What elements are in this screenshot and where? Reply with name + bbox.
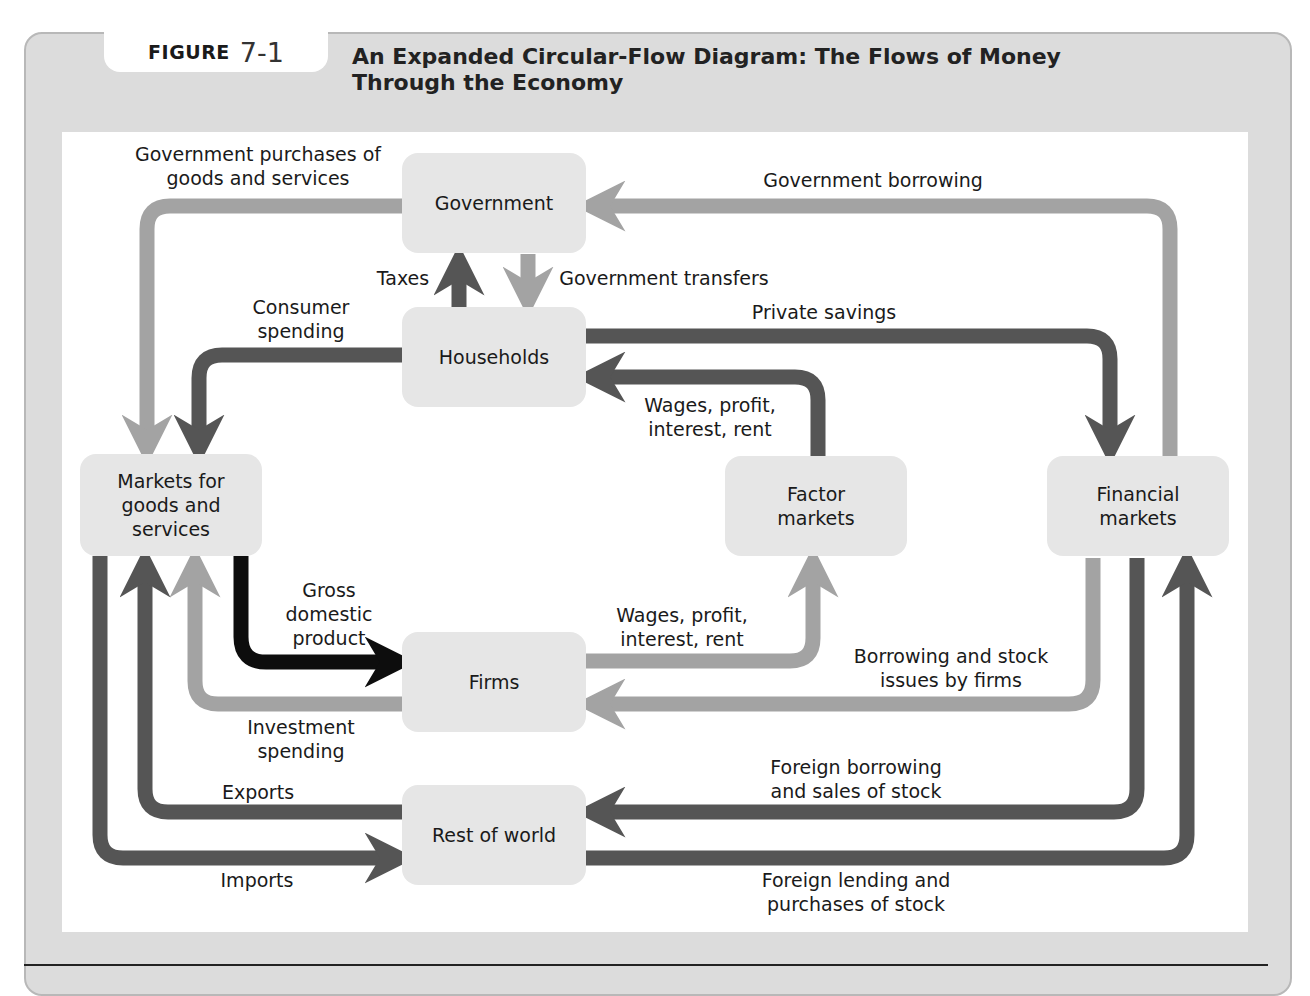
node-government: Government [402,153,586,253]
label-foreign-lending: Foreign lending and purchases of stock [744,868,968,916]
label-taxes: Taxes [370,266,436,290]
label-foreign-borrowing-line1: Foreign borrowing [752,755,960,779]
node-rest-of-world: Rest of world [402,785,586,885]
node-households: Households [402,307,586,407]
node-financial-markets: Financial markets [1047,456,1229,556]
label-private-savings: Private savings [738,300,910,324]
label-foreign-lending-line1: Foreign lending and [744,868,968,892]
label-wages-firms-line2: interest, rent [604,627,760,651]
label-gdp-line1: Gross [276,578,382,602]
label-wages-to-factor: Wages, profit, interest, rent [604,603,760,651]
label-wages-hh-line1: Wages, profit, [632,393,788,417]
label-consumer-spending-line2: spending [236,319,366,343]
label-foreign-borrowing: Foreign borrowing and sales of stock [752,755,960,803]
node-firms: Firms [402,632,586,732]
node-factor-markets: Factor markets [725,456,907,556]
label-exports: Exports [210,780,306,804]
label-wages-to-households: Wages, profit, interest, rent [632,393,788,441]
label-imports: Imports [208,868,306,892]
label-gov-purchases: Government purchases of goods and servic… [132,142,384,190]
label-gov-transfers: Government transfers [558,266,770,290]
label-gov-purchases-line2: goods and services [132,166,384,190]
label-foreign-borrowing-line2: and sales of stock [752,779,960,803]
label-borrowing-firms-line2: issues by firms [838,668,1064,692]
label-gdp-line3: product [276,626,382,650]
label-investment-line2: spending [230,739,372,763]
label-consumer-spending: Consumer spending [236,295,366,343]
label-gov-purchases-line1: Government purchases of [132,142,384,166]
label-wages-hh-line2: interest, rent [632,417,788,441]
label-borrowing-firms: Borrowing and stock issues by firms [838,644,1064,692]
label-wages-firms-line1: Wages, profit, [604,603,760,627]
label-gdp-line2: domestic [276,602,382,626]
label-investment-spending: Investment spending [230,715,372,763]
label-foreign-lending-line2: purchases of stock [744,892,968,916]
label-consumer-spending-line1: Consumer [236,295,366,319]
label-investment-line1: Investment [230,715,372,739]
node-markets-goods-services: Markets for goods and services [80,454,262,556]
flow-consumer-spending [199,355,404,440]
label-gov-borrowing: Government borrowing [740,168,1006,192]
label-borrowing-firms-line1: Borrowing and stock [838,644,1064,668]
label-gdp: Gross domestic product [276,578,382,650]
